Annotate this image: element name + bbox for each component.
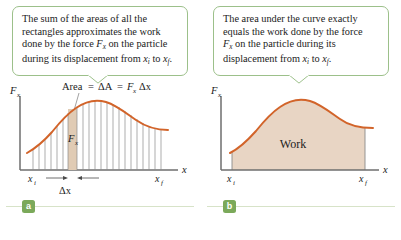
- callout-b-line1: The area under the curve exactly: [223, 13, 358, 24]
- callout-a-line1: The sum of the areas of all the: [22, 13, 147, 24]
- callout-panel-b: The area under the curve exactly equals …: [213, 6, 389, 76]
- area-equation: Area = ΔA = F x Δx: [62, 81, 152, 95]
- area-equation-word: Area: [62, 81, 83, 92]
- callout-b-line3-post: on the particle during its: [233, 38, 336, 49]
- bar-label: F: [67, 133, 75, 144]
- area-equation-force-sub: x: [132, 87, 137, 95]
- chart-panel-b: F x x Work x i x f: [201, 78, 401, 200]
- physics-figure-work-area: The sum of the areas of all the rectangl…: [0, 0, 401, 240]
- callout-a-line2: rectangles approximates the work: [22, 26, 161, 37]
- callout-a-line3-pre: done by the force: [22, 38, 96, 49]
- callout-text-a: The sum of the areas of all the rectangl…: [22, 13, 180, 69]
- x-end-label-a: x: [154, 173, 160, 184]
- callout-a-line4-pre: during its displacement from: [22, 53, 143, 64]
- callout-b-line4-post: .: [329, 53, 332, 64]
- panel-badge-a: a: [22, 200, 35, 213]
- y-axis-label-b: F: [210, 85, 218, 96]
- area-equation-eq2: =: [117, 81, 123, 92]
- callout-b-line4-pre: displacement from: [223, 53, 303, 64]
- footer-panel-b: b: [201, 200, 401, 214]
- work-area-label: Work: [280, 137, 306, 151]
- callout-panel-a: The sum of the areas of all the rectangl…: [12, 6, 188, 76]
- area-equation-delta-x: Δx: [139, 81, 152, 92]
- x-end-sub-a: f: [161, 179, 164, 187]
- callout-a-line3-post: on the particle: [106, 38, 167, 49]
- panel-b: The area under the curve exactly equals …: [201, 0, 401, 240]
- x-start-sub-a: i: [34, 179, 36, 187]
- callout-a-line4-post: .: [170, 53, 173, 64]
- callout-b-line2: equals the work done by the force: [223, 26, 363, 37]
- delta-x-label: Δx: [59, 185, 72, 196]
- panel-a: The sum of the areas of all the rectangl…: [0, 0, 200, 240]
- callout-b-line4-mid: to: [309, 53, 322, 64]
- panel-badge-b: b: [223, 200, 236, 213]
- y-axis-label-a: F: [9, 85, 17, 96]
- x-axis-label-b: x: [382, 164, 388, 175]
- area-equation-eq1: =: [88, 81, 94, 92]
- callout-text-b: The area under the curve exactly equals …: [223, 13, 381, 69]
- x-start-label-a: x: [27, 173, 33, 184]
- x-start-label-b: x: [226, 173, 232, 184]
- delta-x-dimension: [46, 176, 99, 180]
- x-start-sub-b: i: [233, 179, 235, 187]
- callout-a-line4-mid: to: [150, 53, 163, 64]
- chart-panel-a: Area = ΔA = F x Δx F x x: [0, 78, 200, 200]
- bar-label-sub: x: [74, 139, 79, 147]
- area-equation-delta-a: ΔA: [98, 81, 113, 92]
- force-curve-a: [27, 101, 168, 153]
- x-axis-label-a: x: [181, 164, 187, 175]
- x-end-label-b: x: [358, 173, 364, 184]
- x-end-sub-b: f: [365, 179, 368, 187]
- footer-panel-a: a: [0, 200, 200, 214]
- riemann-rectangles: [33, 101, 161, 170]
